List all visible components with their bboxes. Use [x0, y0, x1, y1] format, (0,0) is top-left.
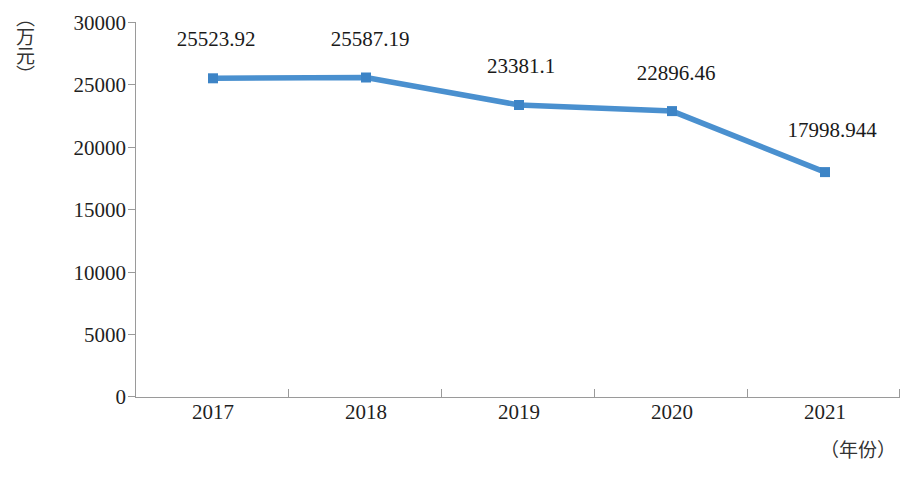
data-label-2020: 22896.46: [586, 62, 766, 84]
data-point-marker: [361, 73, 371, 83]
line-chart: （万元） 30000 25000 20000 15000 10000 5000 …: [0, 0, 922, 482]
data-point-marker: [208, 73, 218, 83]
series-markers: [208, 73, 830, 178]
x-tick-label-2017: 2017: [153, 400, 273, 424]
series-line: [213, 78, 825, 173]
data-label-2018: 25587.19: [280, 28, 460, 50]
data-label-2021: 17998.944: [742, 119, 922, 141]
x-axis-title: （年份）: [800, 440, 915, 462]
data-point-marker: [667, 106, 677, 116]
x-tick-label-2020: 2020: [612, 400, 732, 424]
x-tick-label-2021: 2021: [765, 400, 885, 424]
x-tick-label-2019: 2019: [459, 400, 579, 424]
data-label-2017: 25523.92: [126, 28, 306, 50]
x-tick-label-2018: 2018: [306, 400, 426, 424]
data-point-marker: [514, 100, 524, 110]
data-point-marker: [820, 167, 830, 177]
data-label-2019: 23381.1: [431, 55, 611, 77]
